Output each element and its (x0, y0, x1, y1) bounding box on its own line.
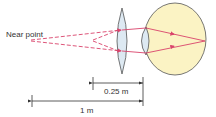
eye-corrective-lens-diagram (0, 0, 216, 117)
eye-lens (142, 27, 150, 55)
near-point-label: Near point (6, 30, 32, 40)
distance-label-large: 1 m (80, 106, 93, 116)
distance-label-small: 0.25 m (104, 87, 128, 97)
near-point-rays (31, 29, 121, 52)
corrective-lens (117, 8, 127, 74)
